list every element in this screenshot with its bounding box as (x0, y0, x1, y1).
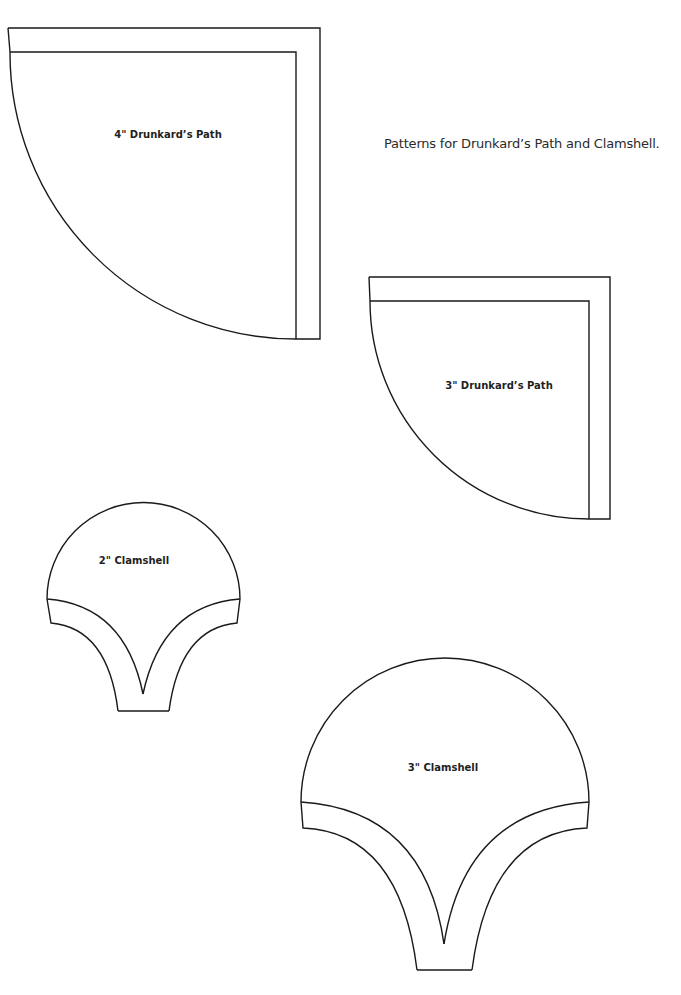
drunkards-path-4-seam-line (10, 52, 296, 339)
clamshell-2-edge-left (47, 599, 118, 711)
clamshell-3-dome (301, 658, 589, 802)
figure-caption: Patterns for Drunkard’s Path and Clamshe… (384, 136, 660, 151)
clamshell-3-edge-right (472, 802, 589, 970)
clamshell-2-dome (47, 503, 240, 599)
clamshell-2-template: 2" Clamshell (47, 503, 240, 711)
clamshell-3-edge-left (301, 802, 417, 970)
clamshell-2-label: 2" Clamshell (99, 555, 169, 566)
drunkards-path-3-seam-line (370, 301, 589, 519)
drunkards-path-3-label: 3" Drunkard’s Path (445, 380, 553, 391)
drunkards-path-3-arc (369, 277, 589, 519)
drunkards-path-4-label: 4" Drunkard’s Path (114, 129, 222, 140)
clamshell-2-edge-right (169, 599, 240, 711)
clamshell-3-template: 3" Clamshell (301, 658, 589, 970)
drunkards-path-4-arc (8, 28, 296, 339)
clamshell-3-label: 3" Clamshell (408, 762, 478, 773)
clamshell-3-seam-left (301, 802, 444, 944)
drunkards-path-4-template: 4" Drunkard’s Path (8, 28, 320, 339)
drunkards-path-3-template: 3" Drunkard’s Path (369, 277, 610, 519)
drunkards-path-4-outer-edge (8, 28, 320, 339)
clamshell-3-seam-right (444, 802, 589, 944)
drunkards-path-3-outer-edge (369, 277, 610, 519)
